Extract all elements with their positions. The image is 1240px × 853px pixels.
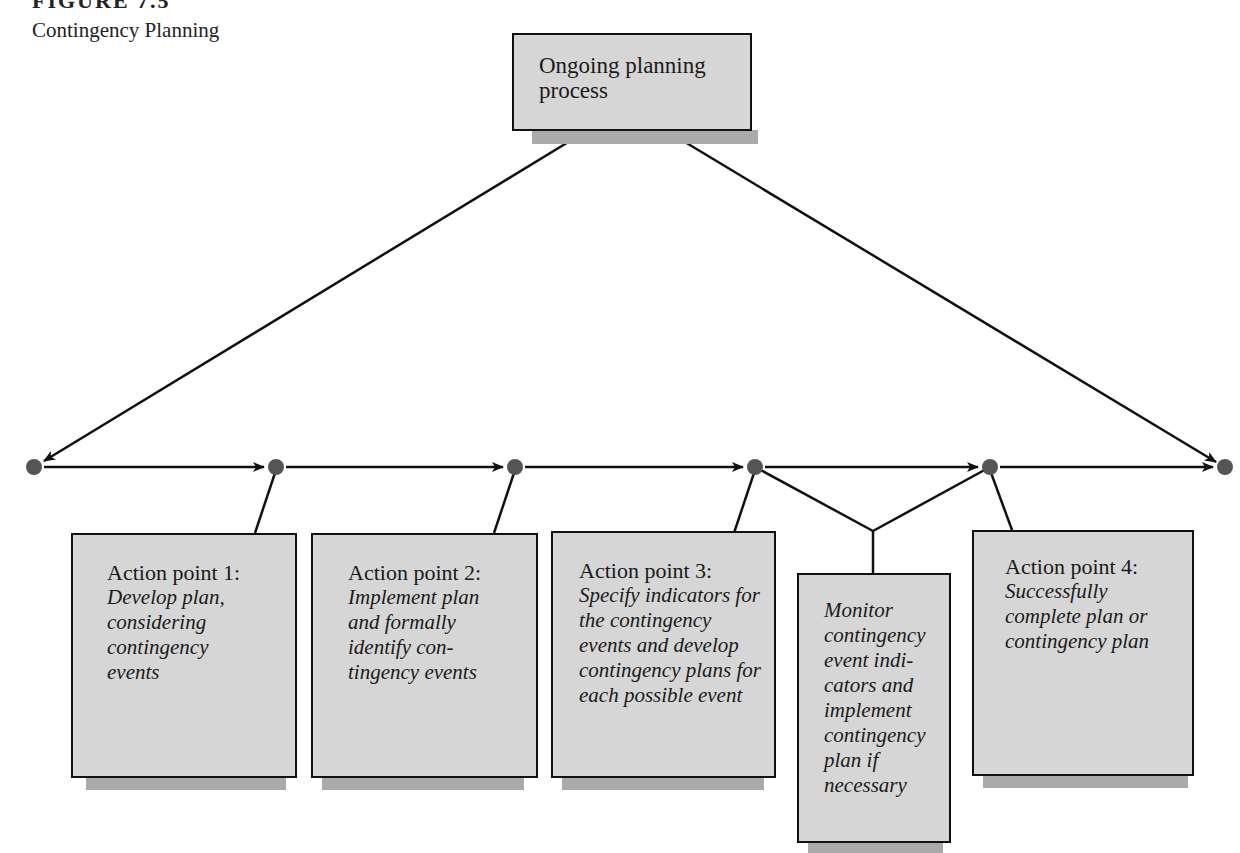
monitor-box: Monitor contingency event indi-cators an… [797,573,951,843]
timeline-node-start [26,459,42,475]
action-point-2-box: Action point 2: Implement plan and forma… [311,533,538,778]
action-point-3-heading: Action point 3: [579,558,774,583]
connector-monitor-left [755,467,873,531]
action-point-1-description: Develop plan, considering contingency ev… [107,585,257,685]
ap2-shadow [322,777,524,790]
timeline-node-ap4 [982,459,998,475]
monitor-shadow [808,842,943,853]
timeline-node-ap1 [268,459,284,475]
arrow-top-to-end [665,130,1216,462]
action-point-3-box: Action point 3: Specify indicators for t… [551,531,776,778]
action-point-3-description: Specify indicators for the contingency e… [579,583,769,708]
connector-ap3 [734,470,755,533]
timeline-node-end [1217,459,1233,475]
action-point-4-box: Action point 4: Successfully complete pl… [972,530,1194,776]
timeline-node-ap2 [507,459,523,475]
ap1-shadow [86,777,286,790]
monitor-description: Monitor contingency event indi-cators an… [824,598,944,798]
action-point-4-heading: Action point 4: [1005,554,1192,579]
arrow-top-to-start [44,130,588,461]
ap3-shadow [562,777,764,790]
action-point-2-description: Implement plan and formally identify con… [348,585,498,685]
ap4-shadow [983,775,1188,788]
action-point-1-heading: Action point 1: [107,560,295,585]
action-point-4-description: Successfully complete plan or contingenc… [1005,579,1170,654]
top-box-shadow [532,130,758,144]
connector-monitor-right [873,467,990,531]
connector-ap1 [255,470,276,533]
action-point-2-heading: Action point 2: [348,560,536,585]
action-point-1-box: Action point 1: Develop plan, considerin… [71,533,297,778]
ongoing-planning-label: Ongoing planning process [539,53,750,103]
connector-ap4 [990,470,1012,530]
ongoing-planning-box: Ongoing planning process [512,33,752,131]
timeline-node-ap3 [747,459,763,475]
connector-ap2 [494,470,515,533]
